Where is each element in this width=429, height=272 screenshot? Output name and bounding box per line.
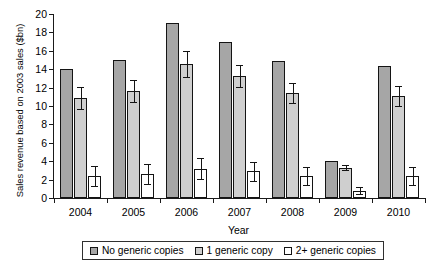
y-axis-tick-label: 14 xyxy=(25,64,47,74)
legend-item: No generic copies xyxy=(90,245,184,256)
bar xyxy=(219,42,233,198)
legend-item-label: 1 generic copy xyxy=(207,245,273,256)
error-bar-cap xyxy=(197,158,205,159)
y-axis-tick-label: 12 xyxy=(25,83,47,93)
x-axis-tick-label: 2006 xyxy=(157,206,217,218)
error-bar-cap xyxy=(250,162,258,163)
x-axis-tick-label: 2007 xyxy=(210,206,270,218)
error-bar-cap xyxy=(77,87,85,88)
y-axis-tick-label: 18 xyxy=(25,27,47,37)
legend-item: 2+ generic copies xyxy=(284,245,376,256)
error-bar-cap xyxy=(183,77,191,78)
y-axis-tick-label: 2 xyxy=(25,175,47,185)
y-axis-tick xyxy=(49,51,54,52)
error-bar xyxy=(95,166,96,186)
error-bar xyxy=(187,51,188,77)
error-bar-cap xyxy=(289,83,297,84)
y-axis-tick-label: 0 xyxy=(25,193,47,203)
y-axis-tick xyxy=(49,143,54,144)
error-bar-cap xyxy=(342,165,350,166)
error-bar xyxy=(254,162,255,180)
y-axis-tick xyxy=(49,69,54,70)
y-axis-tick-label: 4 xyxy=(25,156,47,166)
error-bar-cap xyxy=(409,167,417,168)
bar xyxy=(272,61,286,198)
error-bar-cap xyxy=(91,166,99,167)
y-axis-tick xyxy=(49,124,54,125)
y-axis-tick xyxy=(49,88,54,89)
bar xyxy=(339,168,353,198)
error-bar-cap xyxy=(395,106,403,107)
plot-inner: 0246810121416182020042005200620072008200… xyxy=(54,14,425,198)
x-axis-tick-label: 2008 xyxy=(263,206,323,218)
error-bar-cap xyxy=(130,102,138,103)
error-bar-cap xyxy=(236,65,244,66)
error-bar-cap xyxy=(342,170,350,171)
error-bar-cap xyxy=(409,185,417,186)
bar xyxy=(325,161,339,198)
error-bar-cap xyxy=(144,164,152,165)
bar xyxy=(233,76,247,198)
x-axis-tick xyxy=(54,198,55,203)
x-axis-tick xyxy=(160,198,161,203)
x-axis-tick-label: 2005 xyxy=(104,206,164,218)
bar xyxy=(286,93,300,198)
error-bar xyxy=(148,164,149,184)
x-axis-tick xyxy=(372,198,373,203)
error-bar xyxy=(413,167,414,185)
legend-swatch-icon xyxy=(195,247,203,255)
y-axis-tick-label: 20 xyxy=(25,9,47,19)
legend-swatch-icon xyxy=(284,247,292,255)
x-axis-tick xyxy=(213,198,214,203)
bar-chart-figure: Sales revenue based on 2003 sales ($bn) … xyxy=(0,0,429,272)
error-bar-cap xyxy=(356,187,364,188)
bar xyxy=(127,91,141,198)
error-bar xyxy=(399,86,400,106)
error-bar-cap xyxy=(303,167,311,168)
legend-item: 1 generic copy xyxy=(195,245,273,256)
error-bar-cap xyxy=(356,194,364,195)
x-axis-tick xyxy=(266,198,267,203)
chart-legend: No generic copies1 generic copy2+ generi… xyxy=(82,241,384,260)
error-bar xyxy=(307,167,308,185)
bar xyxy=(392,96,406,198)
error-bar-cap xyxy=(130,80,138,81)
x-axis-tick xyxy=(107,198,108,203)
x-axis-tick xyxy=(319,198,320,203)
error-bar-cap xyxy=(289,103,297,104)
x-axis-title: Year xyxy=(53,224,424,236)
y-axis-tick xyxy=(49,106,54,107)
error-bar-cap xyxy=(77,109,85,110)
error-bar-cap xyxy=(250,181,258,182)
x-axis-tick-label: 2004 xyxy=(51,206,111,218)
x-axis-tick xyxy=(425,198,426,203)
error-bar-cap xyxy=(197,179,205,180)
bar xyxy=(60,69,74,198)
error-bar xyxy=(134,80,135,102)
error-bar-cap xyxy=(183,51,191,52)
x-axis-tick-label: 2009 xyxy=(316,206,376,218)
legend-item-label: 2+ generic copies xyxy=(296,245,376,256)
legend-item-label: No generic copies xyxy=(102,245,184,256)
legend-swatch-icon xyxy=(90,247,98,255)
bar xyxy=(180,64,194,198)
y-axis-title: Sales revenue based on 2003 sales ($bn) xyxy=(14,11,25,211)
y-axis-tick-label: 10 xyxy=(25,101,47,111)
bar xyxy=(113,60,127,198)
error-bar-cap xyxy=(303,185,311,186)
bar xyxy=(378,66,392,198)
error-bar-cap xyxy=(236,87,244,88)
y-axis-tick xyxy=(49,180,54,181)
y-axis-tick xyxy=(49,32,54,33)
y-axis-tick xyxy=(49,14,54,15)
y-axis-tick-label: 8 xyxy=(25,119,47,129)
error-bar-cap xyxy=(144,184,152,185)
error-bar xyxy=(81,87,82,109)
error-bar-cap xyxy=(91,186,99,187)
bar xyxy=(74,98,88,198)
x-axis-tick-label: 2010 xyxy=(369,206,429,218)
y-axis-tick-label: 16 xyxy=(25,46,47,56)
y-axis-tick-label: 6 xyxy=(25,138,47,148)
plot-area: 0246810121416182020042005200620072008200… xyxy=(53,14,425,199)
error-bar-cap xyxy=(395,86,403,87)
